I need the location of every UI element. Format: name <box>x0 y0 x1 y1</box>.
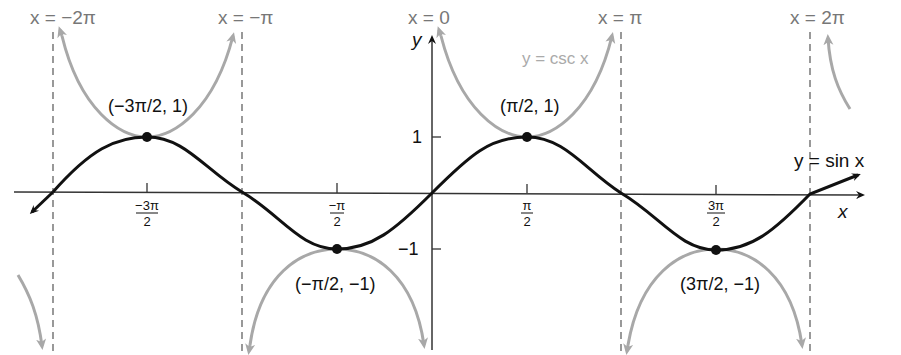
label-asym-m2pi: x = −2π <box>30 7 96 28</box>
label-pt2: (−π/2, −1) <box>295 274 375 294</box>
label-y-axis: y <box>410 29 423 50</box>
svg-text:2: 2 <box>333 214 340 229</box>
svg-text:π: π <box>523 198 532 213</box>
label-csc: y = csc x <box>522 49 589 68</box>
svg-text:2: 2 <box>143 214 150 229</box>
label-pt1: (−3π/2, 1) <box>108 96 188 116</box>
point-negpi2 <box>332 244 342 254</box>
label-asym-mpi: x = −π <box>218 7 273 28</box>
label-asym-0: x = 0 <box>408 7 450 28</box>
svg-text:−π: −π <box>329 198 346 213</box>
label-pt3: (π/2, 1) <box>500 96 559 116</box>
ytick-m1: −1 <box>398 239 419 259</box>
label-asym-pi: x = π <box>598 7 642 28</box>
x-axis <box>14 192 862 195</box>
graph-canvas: x = −2π x = −π x = 0 x = π x = 2π y = cs… <box>0 0 901 355</box>
svg-text:−3π: −3π <box>135 198 159 213</box>
svg-text:3π: 3π <box>708 198 724 213</box>
ytick-1: 1 <box>412 127 422 147</box>
label-pt4: (3π/2, −1) <box>680 274 760 294</box>
point-neg3pi2 <box>142 132 152 142</box>
sin-csc-graph: x = −2π x = −π x = 0 x = π x = 2π y = cs… <box>0 0 901 355</box>
point-3pi2 <box>711 245 721 255</box>
label-x-axis: x <box>837 201 849 222</box>
point-pi2 <box>522 132 532 142</box>
label-sin: y = sin x <box>794 150 865 171</box>
label-asym-2pi: x = 2π <box>790 7 845 28</box>
svg-text:2: 2 <box>523 214 530 229</box>
svg-text:2: 2 <box>712 214 719 229</box>
